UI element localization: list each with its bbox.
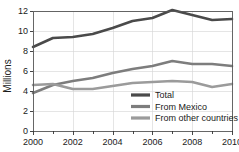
line-chart: 024681012 200020022004200620082010 Milli…	[0, 0, 239, 152]
legend-label-0: Total	[155, 90, 174, 100]
y-tick-label-6: 6	[23, 66, 28, 76]
legend-label-2: From other countries	[155, 113, 239, 123]
y-tick-label-12: 12	[18, 6, 28, 16]
y-tick-label-2: 2	[23, 106, 28, 116]
x-tick-label-2006: 2006	[142, 137, 162, 147]
x-tick-label-2004: 2004	[103, 137, 123, 147]
y-tick-marks	[30, 12, 33, 132]
x-tick-label-2008: 2008	[182, 137, 202, 147]
y-tick-label-10: 10	[18, 26, 28, 36]
chart-canvas: 024681012 200020022004200620082010 Milli…	[0, 0, 239, 152]
x-tick-labels: 200020022004200620082010	[23, 137, 239, 147]
y-tick-label-0: 0	[23, 126, 28, 136]
legend-label-1: From Mexico	[155, 102, 207, 112]
y-tick-labels: 024681012	[18, 6, 28, 136]
y-tick-label-8: 8	[23, 46, 28, 56]
y-tick-label-4: 4	[23, 86, 28, 96]
x-tick-label-2000: 2000	[23, 137, 43, 147]
legend-swatch-0	[131, 93, 150, 96]
x-tick-label-2010: 2010	[222, 137, 239, 147]
y-axis-label: Millions	[2, 59, 13, 92]
legend-swatch-2	[131, 116, 150, 119]
legend-swatch-1	[131, 105, 150, 108]
x-tick-label-2002: 2002	[63, 137, 83, 147]
